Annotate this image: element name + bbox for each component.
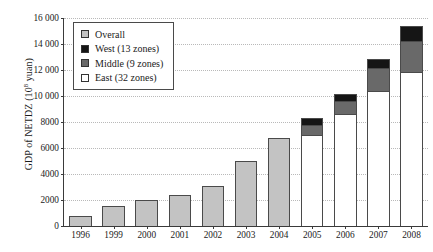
x-tick-mark xyxy=(180,226,181,229)
y-tick-label: 8000 xyxy=(40,117,59,127)
bar-segment[interactable] xyxy=(367,91,390,226)
bar[interactable] xyxy=(69,216,92,226)
bar-slot: 2007 xyxy=(362,18,395,226)
x-tick-mark xyxy=(411,226,412,229)
y-tick-label: 2000 xyxy=(40,195,59,205)
legend-item-label: Overall xyxy=(95,29,125,40)
legend-swatch-icon xyxy=(81,74,89,82)
x-tick-label: 2004 xyxy=(270,230,289,240)
y-tick-label: 4000 xyxy=(40,169,59,179)
x-tick-label: 2006 xyxy=(336,230,355,240)
x-tick-label: 2002 xyxy=(204,230,223,240)
bar-segment[interactable] xyxy=(334,114,357,226)
bar[interactable] xyxy=(135,200,158,226)
x-tick-label: 2003 xyxy=(237,230,256,240)
bar-segment[interactable] xyxy=(301,125,324,135)
legend-item-label: West (13 zones) xyxy=(95,43,159,54)
x-tick-label: 2008 xyxy=(402,230,421,240)
legend-item-overall[interactable]: Overall xyxy=(81,27,163,42)
x-tick-mark xyxy=(345,226,346,229)
bar-slot: 2004 xyxy=(263,18,296,226)
y-tick-label: 12 000 xyxy=(33,65,59,75)
bar-segment[interactable] xyxy=(400,72,423,226)
x-tick-mark xyxy=(246,226,247,229)
bar-slot: 2006 xyxy=(329,18,362,226)
bar[interactable] xyxy=(235,161,258,226)
y-tick-label: 10 000 xyxy=(33,91,59,101)
bar-slot: 2003 xyxy=(229,18,262,226)
bar-segment[interactable] xyxy=(235,161,258,226)
legend-swatch-icon xyxy=(81,30,89,38)
bar-segment[interactable] xyxy=(334,101,357,114)
y-tick-label: 16 000 xyxy=(33,13,59,23)
bar[interactable] xyxy=(268,138,291,226)
bar-segment[interactable] xyxy=(367,68,390,92)
x-tick-mark xyxy=(81,226,82,229)
legend-item-label: Middle (9 zones) xyxy=(95,58,163,69)
bar-segment[interactable] xyxy=(400,26,423,40)
bar[interactable] xyxy=(202,186,225,226)
x-tick-mark xyxy=(378,226,379,229)
y-tick-mark xyxy=(61,226,64,227)
bar-segment[interactable] xyxy=(202,186,225,226)
bar[interactable] xyxy=(102,206,125,226)
x-tick-label: 2000 xyxy=(137,230,156,240)
x-tick-mark xyxy=(279,226,280,229)
chart-legend: OverallWest (13 zones)Middle (9 zones)Ea… xyxy=(73,22,174,90)
legend-item-label: East (32 zones) xyxy=(95,72,157,83)
x-tick-label: 2001 xyxy=(171,230,190,240)
bar[interactable] xyxy=(367,59,390,226)
bar-segment[interactable] xyxy=(268,138,291,226)
legend-item-middle[interactable]: Middle (9 zones) xyxy=(81,56,163,71)
x-tick-label: 1996 xyxy=(71,230,90,240)
x-tick-label: 1999 xyxy=(104,230,123,240)
bar-segment[interactable] xyxy=(301,135,324,226)
x-tick-mark xyxy=(147,226,148,229)
bar[interactable] xyxy=(400,26,423,226)
legend-item-east[interactable]: East (32 zones) xyxy=(81,71,163,86)
y-axis-title: GDP of NETDZ (108 yuan) xyxy=(22,29,34,199)
y-axis-title-exponent: 8 xyxy=(22,84,29,87)
x-tick-mark xyxy=(213,226,214,229)
x-tick-label: 2005 xyxy=(303,230,322,240)
legend-item-west[interactable]: West (13 zones) xyxy=(81,42,163,57)
x-tick-mark xyxy=(114,226,115,229)
y-tick-label: 0 xyxy=(54,221,59,231)
x-tick-mark xyxy=(312,226,313,229)
bar-segment[interactable] xyxy=(367,59,390,68)
legend-swatch-icon xyxy=(81,45,89,53)
bar-slot: 2008 xyxy=(395,18,428,226)
chart-figure: GDP of NETDZ (108 yuan) 0200040006000800… xyxy=(0,0,433,252)
y-tick-label: 6000 xyxy=(40,143,59,153)
bar-slot: 2002 xyxy=(196,18,229,226)
bar[interactable] xyxy=(169,195,192,226)
bar-segment[interactable] xyxy=(400,41,423,72)
legend-swatch-icon xyxy=(81,59,89,67)
x-tick-label: 2007 xyxy=(369,230,388,240)
bar-segment[interactable] xyxy=(169,195,192,226)
bar-slot: 2005 xyxy=(296,18,329,226)
bar-segment[interactable] xyxy=(69,216,92,226)
bar[interactable] xyxy=(301,118,324,226)
bar[interactable] xyxy=(334,94,357,226)
bar-segment[interactable] xyxy=(102,206,125,226)
bar-segment[interactable] xyxy=(135,200,158,226)
y-tick-label: 14 000 xyxy=(33,39,59,49)
